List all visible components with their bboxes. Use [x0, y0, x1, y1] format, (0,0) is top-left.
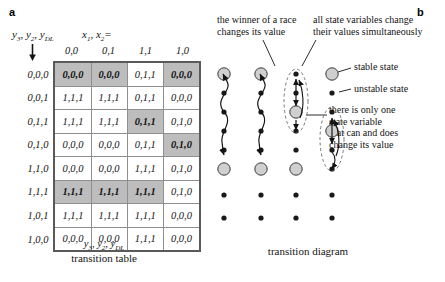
- table-cell: 0,1,0: [163, 157, 200, 181]
- stable-state-node: [255, 163, 267, 175]
- table-row: 0,1,00,0,00,0,00,1,10,1,0: [12, 133, 200, 157]
- unstable-state-node: [258, 215, 263, 220]
- table-row: 0,0,00,0,00,0,00,1,10,0,0: [12, 62, 200, 86]
- unstable-state-node: [293, 147, 298, 152]
- unstable-state-node: [293, 192, 298, 197]
- row-header: 0,0,0: [12, 62, 54, 86]
- stable-state-node: [218, 163, 230, 175]
- unstable-state-node: [221, 215, 226, 220]
- diagram-caption: transition diagram: [208, 245, 408, 257]
- table-cell: 0,1,1: [127, 133, 163, 157]
- table-cell: 0,1,0: [163, 110, 200, 134]
- row-header: 1,0,1: [12, 204, 54, 228]
- unstable-state-node: [329, 192, 334, 197]
- table-cell: 1,1,1: [54, 110, 91, 134]
- unstable-state-node: [293, 71, 298, 76]
- table-cell: 1,1,1: [91, 204, 127, 228]
- column-header: 1,1: [127, 45, 164, 59]
- column-header: 1,0: [164, 45, 201, 59]
- table-caption: transition table: [0, 252, 208, 264]
- table-cell-stable: 1,1,1: [54, 180, 91, 204]
- row-header: 0,1,0: [12, 133, 54, 157]
- table-cell: 1,1,1: [54, 204, 91, 228]
- unstable-state-node: [329, 215, 334, 220]
- table-cell: 0,0,0: [91, 133, 127, 157]
- table-cell: 1,1,1: [91, 86, 127, 110]
- table-column-headers: 0,0 0,1 1,1 1,0: [53, 45, 201, 59]
- down-arrow-icon: [28, 44, 37, 61]
- table-cell: 0,0,0: [163, 86, 200, 110]
- stable-state-node: [290, 163, 302, 175]
- column-header: 0,0: [53, 45, 90, 59]
- row-header: 1,1,0: [12, 157, 54, 181]
- row-header: 0,1,1: [12, 110, 54, 134]
- table-row: 0,1,11,1,11,1,10,1,10,1,0: [12, 110, 200, 134]
- table-cell: 0,1,1: [127, 86, 163, 110]
- row-header: 0,0,1: [12, 86, 54, 110]
- panel-b-transition-diagram: b the winner of a race changes its value…: [208, 0, 445, 282]
- stable-state-node: [255, 68, 267, 80]
- table-cell: 1,1,1: [127, 204, 163, 228]
- table-cell-stable: 0,0,0: [91, 62, 127, 86]
- table-cell-stable: 0,1,0: [163, 133, 200, 157]
- table-cell-stable: 0,0,0: [54, 62, 91, 86]
- table-cell-stable: 0,0,0: [163, 62, 200, 86]
- unstable-state-node: [258, 192, 263, 197]
- table-cell: 0,0,0: [54, 157, 91, 181]
- row-variables-label: y3, y2, yDL: [12, 28, 54, 43]
- stable-state-node: [218, 68, 230, 80]
- stable-state-node: [326, 68, 338, 80]
- panel-a-transition-table: a y3, y2, yDL x1, x2= 0,0 0,1 1,1 1,0 0,…: [0, 0, 208, 282]
- transition-diagram-graphic: [208, 0, 445, 282]
- unstable-state-node: [293, 215, 298, 220]
- row-header: 1,1,1: [12, 180, 54, 204]
- table-cell-stable: 0,1,1: [127, 110, 163, 134]
- unstable-state-node: [329, 109, 334, 114]
- table-cell: 0,0,0: [91, 157, 127, 181]
- table-cell: 1,1,1: [127, 157, 163, 181]
- table-row: 1,0,11,1,11,1,11,1,10,0,0: [12, 204, 200, 228]
- unstable-state-node: [329, 147, 334, 152]
- table-row: 0,0,11,1,11,1,10,1,10,0,0: [12, 86, 200, 110]
- unstable-state-node: [221, 192, 226, 197]
- transition-table: 0,0,00,0,00,0,00,1,10,0,00,0,11,1,11,1,1…: [12, 61, 201, 252]
- column-variables-label: x1, x2=: [82, 28, 112, 43]
- table-cell: 1,1,1: [91, 110, 127, 134]
- table-footer-variables: y3, y2, yDL: [0, 238, 208, 252]
- table-cell-stable: 1,1,1: [127, 180, 163, 204]
- table-cell: 1,1,1: [54, 86, 91, 110]
- dashed-grouping-ellipses: [284, 69, 344, 171]
- leader-lines: [263, 40, 351, 115]
- panel-a-letter: a: [9, 6, 15, 18]
- table-cell-stable: 1,1,1: [91, 180, 127, 204]
- table-row: 1,1,00,0,00,0,01,1,10,1,0: [12, 157, 200, 181]
- table-cell: 0,1,0: [163, 180, 200, 204]
- column-header: 0,1: [90, 45, 127, 59]
- table-cell: 0,0,0: [54, 133, 91, 157]
- unstable-state-node: [329, 90, 334, 95]
- table-cell: 0,1,1: [127, 62, 163, 86]
- table-cell: 0,0,0: [163, 204, 200, 228]
- table-row: 1,1,11,1,11,1,11,1,10,1,0: [12, 180, 200, 204]
